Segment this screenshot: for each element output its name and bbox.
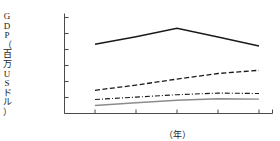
x-axis-title: （年） [164, 131, 191, 140]
x-axis-tick-labels [0, 0, 280, 141]
gdp-line-chart: GDP（百万USドル） （年） [0, 0, 280, 141]
